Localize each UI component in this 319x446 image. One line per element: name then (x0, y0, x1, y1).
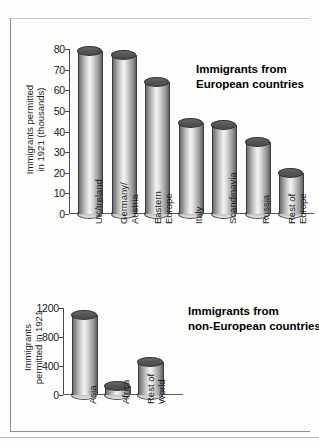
bar-cap (71, 310, 97, 320)
chart-non-european-immigrants: Immigrants permitted in 1921 Immigrants … (0, 285, 319, 435)
x-tick-label: Rest ofEurope (287, 193, 308, 224)
chart-european-title: Immigrants from European countries (196, 62, 304, 92)
x-tick-label-line: Asia (88, 386, 99, 404)
euro-y-tick-label: 80 (35, 44, 65, 54)
euro-y-tick-label: 40 (35, 127, 65, 137)
bar-cap (278, 168, 303, 178)
x-tick-label-line: Austria (130, 182, 141, 224)
x-tick-label-line: UK/Ireland (94, 179, 105, 224)
euro-y-tick (65, 132, 69, 133)
x-tick-label-line: Rest of (287, 193, 298, 224)
euro-y-tick-label: 30 (35, 147, 65, 157)
non-y-tick-label: 1200 (29, 303, 59, 313)
euro-y-tick-label: 10 (35, 188, 65, 198)
chart-european-title-line2: European countries (196, 77, 304, 92)
euro-y-tick (65, 111, 69, 112)
chart-non-european-title: Immigrants from non-European countries (188, 304, 319, 334)
euro-y-tick-label: 60 (35, 85, 65, 95)
non-y-tick-label: 400 (29, 361, 59, 371)
non-y-spine (63, 308, 64, 396)
bar-body (179, 123, 204, 214)
bar-cap (211, 120, 236, 130)
bar-body (72, 315, 98, 395)
euro-y-tick-label: 50 (35, 106, 65, 116)
x-tick-label: Russia (261, 195, 272, 224)
non-y-tick (59, 366, 63, 367)
x-tick-label: Africa (121, 380, 132, 404)
x-tick-label-line: Eastern (153, 191, 164, 224)
bar-cap (178, 118, 203, 128)
x-tick-label-line: Italy (194, 207, 205, 224)
x-tick-label-line: Germany/ (119, 182, 130, 224)
euro-y-tick (65, 49, 69, 50)
euro-y-tick (65, 70, 69, 71)
chart-non-european-title-line2: non-European countries (188, 319, 319, 334)
euro-y-tick (65, 152, 69, 153)
x-tick-label-line: Rest of (146, 374, 157, 404)
chart-non-european-ylabel-line2: permitted in 1921 (33, 311, 44, 384)
chart-european-immigrants: Immigrants permitted in 1921 (thousands)… (0, 0, 319, 285)
bar-italy (179, 123, 202, 214)
page-frame-bottom-rule (0, 437, 319, 438)
euro-y-tick-label: 20 (35, 168, 65, 178)
non-y-tick-label: 0 (29, 390, 59, 400)
chart-european-ylabel-line1: Immigrants permitted (24, 85, 35, 174)
x-tick-label: Rest ofWorld (146, 374, 167, 404)
x-tick-label: EasternEurope (153, 191, 174, 224)
x-tick-label: Germany/Austria (119, 182, 140, 224)
chart-european-title-line1: Immigrants from (196, 62, 304, 77)
bar-asia (72, 315, 96, 395)
euro-y-tick (65, 173, 69, 174)
x-tick-label-line: Scandinavia (228, 172, 239, 224)
x-tick-label: Italy (194, 207, 205, 224)
x-tick-label-line: Africa (121, 380, 132, 404)
bar-cap (144, 77, 169, 87)
chart-non-european-title-line1: Immigrants from (188, 304, 319, 319)
document-page: Immigrants permitted in 1921 (thousands)… (0, 0, 319, 446)
euro-y-spine (69, 49, 70, 215)
bar-cap (245, 137, 270, 147)
bar-cap (111, 50, 136, 60)
euro-y-tick-label: 70 (35, 65, 65, 75)
x-tick-label-line: World (157, 374, 168, 404)
bar-cap (137, 357, 163, 367)
x-tick-label: Scandinavia (228, 172, 239, 224)
non-y-tick (59, 308, 63, 309)
x-tick-label-line: Russia (261, 195, 272, 224)
non-y-tick-label: 800 (29, 332, 59, 342)
x-tick-label: UK/Ireland (94, 179, 105, 224)
bar-cap (77, 46, 102, 56)
x-tick-label-line: Europe (297, 193, 308, 224)
x-tick-label: Asia (88, 386, 99, 404)
x-tick-label-line: Europe (163, 191, 174, 224)
non-y-tick (59, 337, 63, 338)
euro-y-tick-label: 0 (35, 209, 65, 219)
euro-y-tick (65, 193, 69, 194)
euro-y-tick (65, 90, 69, 91)
